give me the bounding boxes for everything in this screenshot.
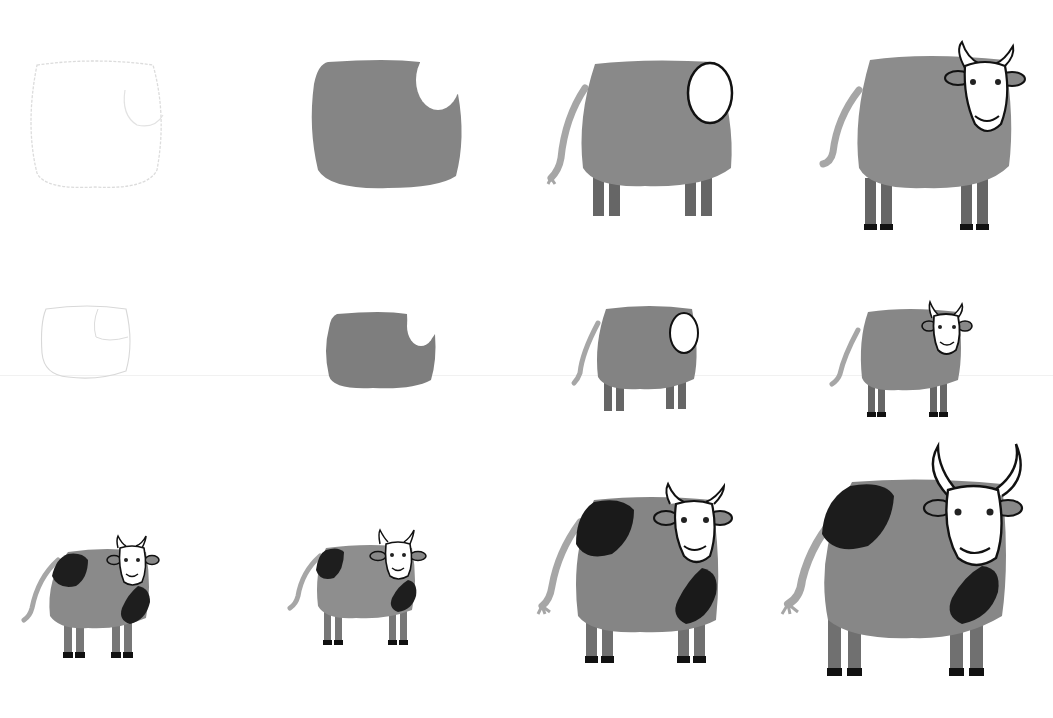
step-3-legs-small [570, 303, 710, 418]
step-2-body-small [323, 310, 438, 392]
step-2-body-large [308, 58, 468, 193]
step-1-sketch-small [38, 303, 138, 383]
step-2-spotted-small [282, 532, 427, 657]
step-1-sketch-large [25, 55, 170, 195]
illustration-canvas [0, 0, 1053, 718]
step-4-face-large [815, 38, 1030, 243]
step-3-spotted-medium [530, 482, 740, 672]
step-3-legs-large [545, 58, 745, 228]
step-4-face-small [828, 300, 983, 425]
step-1-spotted-small [18, 538, 168, 668]
step-4-spotted-bull-large [772, 440, 1037, 690]
